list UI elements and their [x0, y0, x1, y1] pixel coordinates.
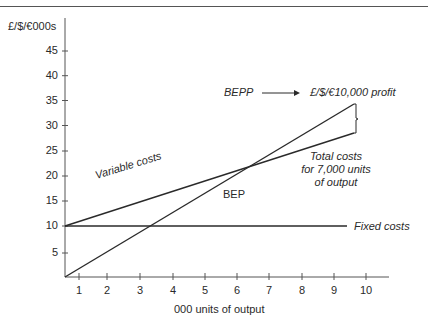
x-tick-label: 2: [97, 284, 117, 296]
y-tick-label: 35: [34, 94, 58, 106]
x-tick-label: 5: [195, 284, 215, 296]
y-tick-label: 15: [34, 194, 58, 206]
x-tick-label: 7: [259, 284, 279, 296]
x-tick-label: 6: [227, 284, 247, 296]
x-tick-label: 10: [356, 284, 376, 296]
revenue-line: [65, 104, 354, 277]
x-tick-label: 4: [163, 284, 183, 296]
arrow-head-icon: [294, 90, 300, 96]
y-tick-label: 10: [34, 219, 58, 231]
total-costs-label-line3: of output: [305, 176, 367, 188]
y-tick-label: 20: [34, 169, 58, 181]
fixed-costs-label: Fixed costs: [354, 220, 410, 232]
total-costs-label-line2: for 7,000 units: [294, 163, 378, 175]
x-tick-label: 3: [130, 284, 150, 296]
bep-label: BEP: [223, 188, 245, 200]
x-tick-label: 9: [324, 284, 344, 296]
total-costs-label-line1: Total costs: [305, 150, 367, 162]
x-axis-title: 000 units of output: [174, 303, 265, 315]
profit-label: £/$/€10,000 profit: [310, 86, 396, 98]
y-tick-label: 30: [34, 119, 58, 131]
y-tick-label: 45: [34, 44, 58, 56]
x-tick-label: 1: [69, 284, 89, 296]
y-tick-label: 5: [34, 246, 58, 258]
y-axis-title: £/$/€000s: [8, 20, 56, 32]
profit-bracket: [354, 104, 358, 133]
bepp-label: BEPP: [224, 86, 253, 98]
y-tick-label: 25: [34, 144, 58, 156]
y-tick-label: 40: [34, 69, 58, 81]
x-tick-label: 8: [292, 284, 312, 296]
